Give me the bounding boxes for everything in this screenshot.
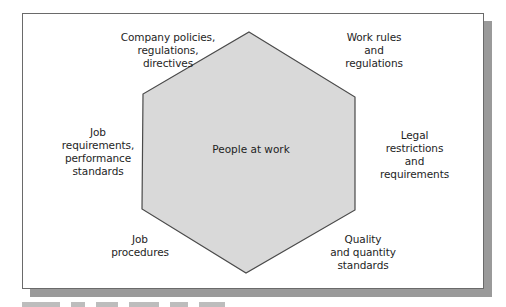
influence-label-legal-restrictions: Legal restrictions and requirements (372, 129, 457, 181)
caption-fragment (22, 302, 60, 307)
influence-label-quality-standards: Quality and quantity standards (318, 233, 408, 272)
center-label: People at work (206, 143, 296, 156)
influence-label-work-rules: Work rules and regulations (334, 31, 414, 70)
influence-label-company-policies: Company policies, regulations, directive… (108, 31, 228, 70)
caption-fragment (199, 302, 225, 307)
caption-fragment (96, 302, 118, 307)
caption-fragment (129, 302, 159, 307)
caption-fragment (170, 302, 188, 307)
influence-label-job-procedures: Job procedures (100, 233, 180, 259)
influence-label-job-requirements: Job requirements, performance standards (48, 126, 148, 178)
caption-fragment (71, 302, 85, 307)
figure-caption-clipped (22, 302, 252, 307)
